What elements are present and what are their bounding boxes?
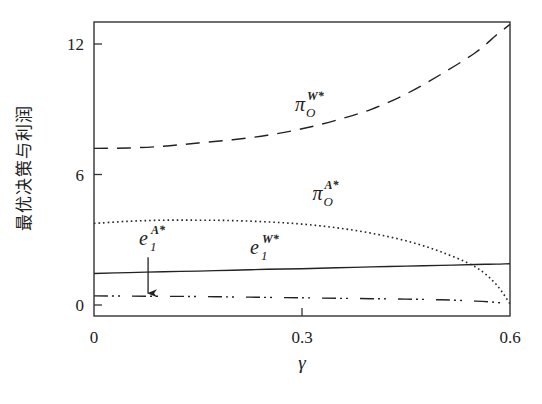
x-tick-label: 0.6 xyxy=(499,328,520,347)
y-tick-label: 0 xyxy=(76,296,85,315)
series-line-3 xyxy=(94,296,510,304)
svg-text:A*: A* xyxy=(150,223,166,237)
svg-text:1: 1 xyxy=(261,248,268,263)
svg-text:W*: W* xyxy=(307,89,325,103)
y-tick-label: 12 xyxy=(67,35,84,54)
svg-text:A*: A* xyxy=(323,178,339,192)
svg-text:e: e xyxy=(139,227,148,249)
svg-text:W*: W* xyxy=(262,232,280,246)
series-line-2 xyxy=(94,264,510,274)
annotation-e-1-w-: e1W* xyxy=(250,232,280,263)
svg-text:O: O xyxy=(306,105,316,120)
svg-text:π: π xyxy=(312,182,323,204)
svg-text:1: 1 xyxy=(150,239,157,254)
x-axis-title: γ xyxy=(298,352,306,373)
svg-text:π: π xyxy=(295,93,306,115)
axis-ticks: 061200.30.6 xyxy=(67,35,521,347)
annotation--o-w-: πOW* xyxy=(295,89,325,120)
annotations: πOW*πOA*e1W*e1A* xyxy=(139,89,339,293)
annotation--o-a-: πOA* xyxy=(312,178,339,209)
line-chart: 061200.30.6 πOW*πOA*e1W*e1A* γ xyxy=(0,0,542,404)
x-tick-label: 0 xyxy=(90,328,99,347)
series-line-0 xyxy=(94,24,510,148)
y-axis-title: 最优决策与利润 xyxy=(10,105,35,231)
svg-text:O: O xyxy=(323,194,333,209)
y-tick-label: 6 xyxy=(76,166,85,185)
annotation-e-1-a-: e1A* xyxy=(139,223,166,293)
x-tick-label: 0.3 xyxy=(291,328,312,347)
series-layer xyxy=(94,24,510,304)
svg-text:e: e xyxy=(250,236,259,258)
